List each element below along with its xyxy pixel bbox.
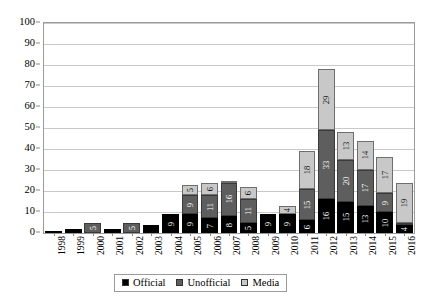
bar-column[interactable]: 9 (162, 214, 179, 233)
bar-column[interactable]: 94 (279, 206, 296, 233)
bar-value-label: 8 (225, 222, 234, 226)
bar-value-label: 9 (381, 200, 390, 204)
bar-segment-unofficial[interactable]: 9 (182, 195, 199, 214)
bar-segment-media[interactable]: 4 (279, 206, 296, 214)
bar-value-label: 5 (88, 226, 97, 230)
x-axis-tick-label: 2009 (272, 236, 282, 255)
bar-column[interactable]: 816 (221, 181, 238, 233)
bar-segment-official[interactable]: 8 (221, 216, 238, 233)
bar-segment-official[interactable]: 9 (279, 214, 296, 233)
x-axis-tick-label: 2005 (194, 236, 204, 255)
bar-column[interactable]: 9 (260, 214, 277, 233)
bar-column[interactable]: 10917 (376, 157, 393, 233)
x-axis-tick-label: 1999 (77, 236, 87, 255)
bar-value-label: 29 (322, 95, 331, 104)
bar-segment-unofficial[interactable]: 11 (240, 199, 257, 222)
bar-segment-official[interactable]: 16 (318, 199, 335, 233)
bar-value-label: 5 (244, 226, 253, 230)
y-axis-tick-label: 10 (25, 206, 36, 217)
bar-value-label: 16 (225, 195, 234, 204)
x-axis-tick-label: 2015 (389, 236, 399, 255)
x-axis-tick-label: 2000 (97, 236, 107, 255)
bar-segment-unofficial[interactable] (396, 223, 413, 225)
bar-segment-official[interactable]: 10 (376, 212, 393, 233)
chart-legend: OfficialUnofficialMedia (114, 274, 287, 292)
bar-segment-media[interactable]: 6 (201, 183, 218, 196)
bar-segment-unofficial[interactable]: 17 (357, 170, 374, 206)
bar-segment-official[interactable]: 7 (201, 218, 218, 233)
bar-segment-unofficial[interactable]: 15 (299, 189, 316, 221)
bar-column[interactable]: 419 (396, 183, 413, 233)
bar-segment-official[interactable]: 9 (162, 214, 179, 233)
x-axis-tick-mark (307, 233, 308, 236)
legend-item-media[interactable]: Media (241, 277, 279, 288)
y-axis-tick-mark (36, 22, 40, 23)
bar-segment-official[interactable]: 5 (240, 223, 257, 234)
y-axis: 0102030405060708090100 (0, 22, 40, 234)
bar-value-label: 9 (166, 221, 175, 225)
bar-segment-unofficial[interactable]: 33 (318, 130, 335, 199)
bar-segment-official[interactable]: 9 (182, 214, 199, 233)
x-axis-tick-mark (190, 233, 191, 236)
bar-column[interactable]: 5116 (240, 187, 257, 233)
y-axis-tick-label: 90 (25, 38, 36, 49)
bar-segment-media[interactable]: 18 (299, 151, 316, 189)
y-axis-tick-mark (36, 190, 40, 191)
bar-segment-unofficial[interactable]: 20 (337, 160, 354, 202)
bar-segment-official[interactable]: 13 (357, 206, 374, 233)
bar-segment-official[interactable]: 15 (337, 202, 354, 234)
x-axis-tick-mark (268, 233, 269, 236)
bar-segment-media[interactable]: 5 (182, 185, 199, 196)
x-axis-tick-label: 2002 (136, 236, 146, 255)
legend-label: Media (252, 277, 279, 288)
bar-segment-unofficial[interactable]: 11 (201, 195, 218, 218)
legend-item-unofficial[interactable]: Unofficial (176, 277, 230, 288)
x-axis-tick-mark (287, 233, 288, 236)
bar-value-label: 9 (186, 203, 195, 207)
bar-value-label: 5 (127, 226, 136, 230)
bar-column[interactable]: 5 (84, 223, 101, 234)
bar-segment-unofficial[interactable]: 16 (221, 183, 238, 217)
bar-segment-official[interactable] (143, 225, 160, 233)
bar-column[interactable]: 131714 (357, 141, 374, 233)
bar-segment-media[interactable]: 14 (357, 141, 374, 170)
bar-segment-official[interactable]: 9 (260, 214, 277, 233)
x-axis-tick-mark (151, 233, 152, 236)
x-axis-tick-mark (210, 233, 211, 236)
bar-value-label: 15 (303, 200, 312, 209)
bar-column[interactable] (143, 225, 160, 233)
bar-segment-media[interactable]: 17 (376, 157, 393, 193)
bar-segment-official[interactable]: 6 (299, 220, 316, 233)
y-axis-tick-label: 80 (25, 59, 36, 70)
bar-segment-media[interactable]: 13 (337, 132, 354, 159)
bar-column[interactable]: 7116 (201, 183, 218, 233)
x-axis-tick-mark (93, 233, 94, 236)
bar-segment-media[interactable]: 19 (396, 183, 413, 223)
bar-column[interactable]: 5 (123, 223, 140, 234)
legend-item-official[interactable]: Official (122, 277, 165, 288)
x-axis-tick-mark (54, 233, 55, 236)
bar-segment-media[interactable]: 29 (318, 69, 335, 130)
y-axis-tick-mark (36, 85, 40, 86)
stacked-bar-chart: 0102030405060708090100 55999571168165116… (0, 0, 425, 297)
y-axis-tick-label: 50 (25, 122, 36, 133)
legend-swatch-official-icon (122, 279, 129, 286)
bar-value-label: 16 (322, 212, 331, 221)
y-axis-tick-mark (36, 127, 40, 128)
bar-column[interactable]: 152013 (337, 132, 354, 233)
bar-column[interactable]: 163329 (318, 69, 335, 233)
bar-value-label: 18 (303, 166, 312, 175)
x-axis-tick-mark (229, 233, 230, 236)
bar-value-label: 4 (283, 208, 292, 212)
bar-column[interactable]: 995 (182, 185, 199, 233)
bar-segment-media[interactable] (221, 181, 238, 183)
bar-segment-official[interactable]: 4 (396, 225, 413, 233)
bar-column[interactable]: 61518 (299, 151, 316, 233)
x-axis-tick-mark (112, 233, 113, 236)
bar-segment-media[interactable]: 6 (240, 187, 257, 200)
bar-value-label: 13 (361, 215, 370, 224)
bar-value-label: 4 (400, 227, 409, 231)
bar-segment-unofficial[interactable]: 9 (376, 193, 393, 212)
bar-segment-unofficial[interactable]: 5 (123, 223, 140, 234)
bar-segment-unofficial[interactable]: 5 (84, 223, 101, 234)
